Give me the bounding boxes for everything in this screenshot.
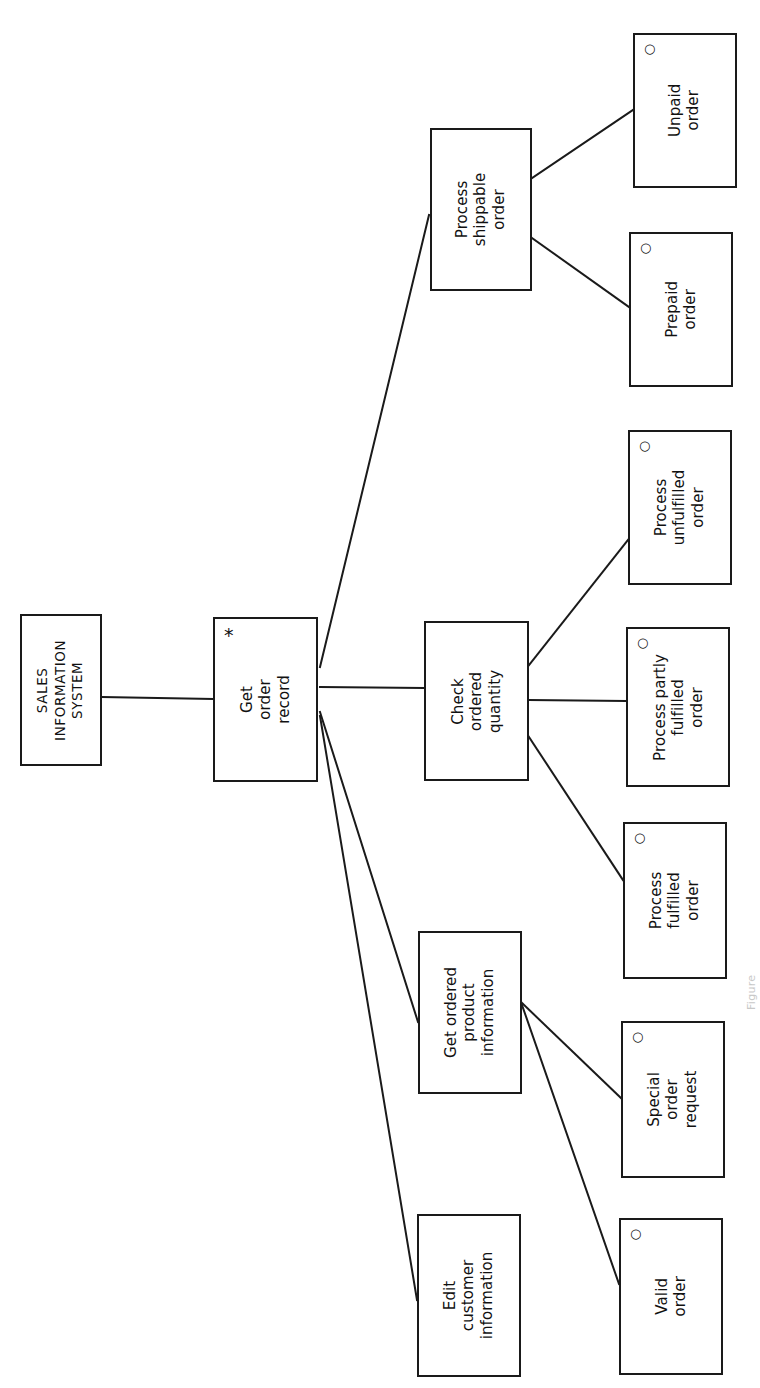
connector-process-shippable-order-to-unpaid-order xyxy=(532,110,633,178)
connector-check-ordered-quantity-to-process-fulfilled-order xyxy=(529,737,623,880)
figure-caption: Figure xyxy=(745,975,758,1010)
connector-process-shippable-order-to-prepaid-order xyxy=(532,238,629,307)
node-label: Get order record xyxy=(238,675,293,724)
node-get-order-record[interactable]: *Get order record xyxy=(213,617,318,782)
connector-get-ordered-product-information-to-valid-order xyxy=(522,1005,619,1284)
connector-get-ordered-product-information-to-special-order-request xyxy=(522,1003,621,1098)
node-check-ordered-quantity[interactable]: Check ordered quantity xyxy=(424,621,529,781)
node-label: Process partly fulfilled order xyxy=(651,654,706,761)
connector-get-order-record-to-edit-customer-information xyxy=(320,716,417,1300)
node-label: Process shippable order xyxy=(454,173,509,247)
connector-check-ordered-quantity-to-process-partly-fulfilled-order xyxy=(529,700,626,701)
selection-marker-icon: ○ xyxy=(639,439,650,452)
node-edit-customer-information[interactable]: Edit customer information xyxy=(417,1214,521,1377)
node-process-fulfilled-order[interactable]: ○Process fulfilled order xyxy=(623,822,727,979)
connector-root-to-get-order-record xyxy=(102,697,213,699)
selection-marker-icon: ○ xyxy=(634,831,645,844)
node-label: Get ordered product information xyxy=(443,967,498,1058)
selection-marker-icon: ○ xyxy=(630,1227,641,1240)
node-get-ordered-product-information[interactable]: Get ordered product information xyxy=(418,931,522,1094)
connector-get-order-record-to-check-ordered-quantity xyxy=(320,687,424,688)
node-unpaid-order[interactable]: ○Unpaid order xyxy=(633,33,737,188)
selection-marker-icon: ○ xyxy=(640,241,651,254)
node-label: Process unfulfilled order xyxy=(653,470,708,546)
node-label: Check ordered quantity xyxy=(449,669,504,732)
node-label: Process fulfilled order xyxy=(648,872,703,930)
node-label: Special order request xyxy=(646,1071,701,1129)
node-label: SALES INFORMATION SYSTEM xyxy=(35,639,88,740)
selection-marker-icon: ○ xyxy=(644,42,655,55)
structure-diagram-canvas: SALES INFORMATION SYSTEM*Get order recor… xyxy=(0,0,760,1388)
node-process-shippable-order[interactable]: Process shippable order xyxy=(430,128,532,291)
node-label: Prepaid order xyxy=(663,281,700,338)
selection-marker-icon: ○ xyxy=(632,1030,643,1043)
node-process-partly-fulfilled-order[interactable]: ○Process partly fulfilled order xyxy=(626,627,730,787)
node-prepaid-order[interactable]: ○Prepaid order xyxy=(629,232,733,387)
node-label: Valid order xyxy=(653,1276,690,1317)
selection-marker-icon: ○ xyxy=(637,636,648,649)
node-process-unfulfilled-order[interactable]: ○Process unfulfilled order xyxy=(628,430,732,585)
connector-get-order-record-to-process-shippable-order xyxy=(320,215,429,667)
node-label: Unpaid order xyxy=(667,84,704,138)
node-special-order-request[interactable]: ○Special order request xyxy=(621,1021,725,1178)
node-valid-order[interactable]: ○Valid order xyxy=(619,1218,723,1375)
node-root[interactable]: SALES INFORMATION SYSTEM xyxy=(20,614,102,766)
node-label: Edit customer information xyxy=(442,1252,497,1340)
connector-check-ordered-quantity-to-process-unfulfilled-order xyxy=(529,540,628,665)
connector-get-order-record-to-get-ordered-product-information xyxy=(320,712,418,1022)
iteration-marker-icon: * xyxy=(224,626,234,645)
